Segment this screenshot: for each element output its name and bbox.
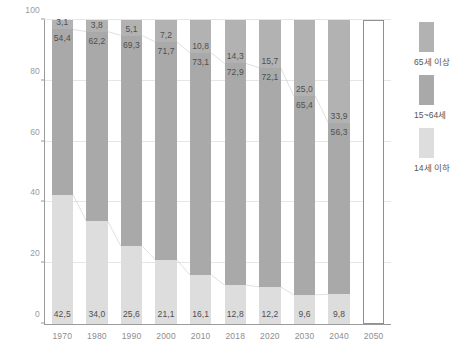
value-label-young-2018: 12,8 [225,309,246,319]
legend-label: 14세 이하 [414,161,466,173]
value-label-old-2030: 25,0 [294,84,315,94]
x-tick-label-2010: 2010 [183,331,218,341]
x-tick-label-2020: 2020 [253,331,288,341]
segment-mid-1980: 62,2 [86,32,107,221]
x-tick-label-2040: 2040 [322,331,357,341]
legend-item-0[interactable]: 65세 이상 [414,22,466,67]
segment-young-1970: 42,5 [52,195,73,324]
segment-young-2018: 12,8 [225,285,246,324]
bar-2020: 12,272,115,7 [259,20,280,324]
x-tick-label-1980: 1980 [80,331,115,341]
x-tick-label-2050: 2050 [356,331,391,341]
segment-mid-2018: 72,9 [225,63,246,285]
bar-1980: 34,062,23,8 [86,20,107,324]
segment-young-1990: 25,6 [121,246,142,324]
value-label-young-2030: 9,6 [294,309,315,319]
value-label-young-2010: 16,1 [190,309,211,319]
segment-mid-2030: 65,4 [294,96,315,295]
value-label-old-1970: 3,1 [52,17,73,27]
bars-layer: 42,554,43,134,062,23,825,669,35,121,171,… [45,20,391,324]
y-tick-label: 100 [25,5,45,15]
value-label-mid-2030: 65,4 [294,100,315,110]
segment-mid-2000: 71,7 [155,42,176,260]
value-label-old-2040: 33,9 [328,111,349,121]
bar-2030: 9,665,425,0 [294,20,315,324]
value-label-mid-2000: 71,7 [155,46,176,56]
value-label-old-2000: 7,2 [155,30,176,40]
y-tick-label: 80 [30,66,45,76]
y-tick-label: 0 [35,309,45,319]
legend-label: 65세 이상 [414,55,466,67]
empty-bar-2050 [363,20,384,324]
value-label-young-1970: 42,5 [52,309,73,319]
segment-young-2010: 16,1 [190,275,211,324]
x-tick-label-1970: 1970 [45,331,80,341]
value-label-young-2000: 21,1 [155,309,176,319]
bar-2040: 9,856,333,9 [328,20,349,324]
value-label-old-2010: 10,8 [190,41,211,51]
value-label-mid-2018: 72,9 [225,67,246,77]
segment-mid-2040: 56,3 [328,123,349,294]
value-label-young-1980: 34,0 [86,309,107,319]
segment-mid-2020: 72,1 [259,68,280,287]
legend: 65세 이상15~64세14세 이하 [414,22,466,181]
legend-item-1[interactable]: 15~64세 [414,75,466,120]
value-label-old-1980: 3,8 [86,20,107,30]
value-label-old-2020: 15,7 [259,56,280,66]
legend-swatch-icon [419,128,434,158]
value-label-mid-2010: 73,1 [190,57,211,67]
bar-2000: 21,171,77,2 [155,20,176,324]
bar-1970: 42,554,43,1 [52,20,73,324]
segment-young-2020: 12,2 [259,287,280,324]
y-tick-label: 60 [30,127,45,137]
segment-old-2040 [328,20,349,123]
plot-area: 020406080100 42,554,43,134,062,23,825,66… [44,20,391,325]
value-label-young-1990: 25,6 [121,309,142,319]
segment-young-2000: 21,1 [155,260,176,324]
legend-item-2[interactable]: 14세 이하 [414,128,466,173]
segment-young-2040: 9,8 [328,294,349,324]
value-label-mid-1990: 69,3 [121,40,142,50]
y-tick-label: 40 [30,187,45,197]
x-tick-label-2018: 2018 [218,331,253,341]
segment-mid-1970: 54,4 [52,29,73,194]
value-label-young-2040: 9,8 [328,309,349,319]
y-tick-label: 20 [30,248,45,258]
value-label-mid-1980: 62,2 [86,36,107,46]
segment-young-1980: 34,0 [86,221,107,324]
value-label-mid-2040: 56,3 [328,127,349,137]
x-tick-label-2030: 2030 [287,331,322,341]
segment-mid-2010: 73,1 [190,53,211,275]
stacked-bar-chart: 020406080100 42,554,43,134,062,23,825,66… [0,0,466,361]
x-tick-label-2000: 2000 [149,331,184,341]
value-label-mid-2020: 72,1 [259,72,280,82]
segment-mid-1990: 69,3 [121,36,142,247]
bar-2010: 16,173,110,8 [190,20,211,324]
value-label-young-2020: 12,2 [259,309,280,319]
legend-label: 15~64세 [414,108,466,120]
value-label-old-2018: 14,3 [225,51,246,61]
value-label-old-1990: 5,1 [121,24,142,34]
legend-swatch-icon [419,22,434,52]
bar-1990: 25,669,35,1 [121,20,142,324]
legend-swatch-icon [419,75,434,105]
bar-2018: 12,872,914,3 [225,20,246,324]
segment-young-2030: 9,6 [294,295,315,324]
x-tick-label-1990: 1990 [114,331,149,341]
value-label-mid-1970: 54,4 [52,33,73,43]
